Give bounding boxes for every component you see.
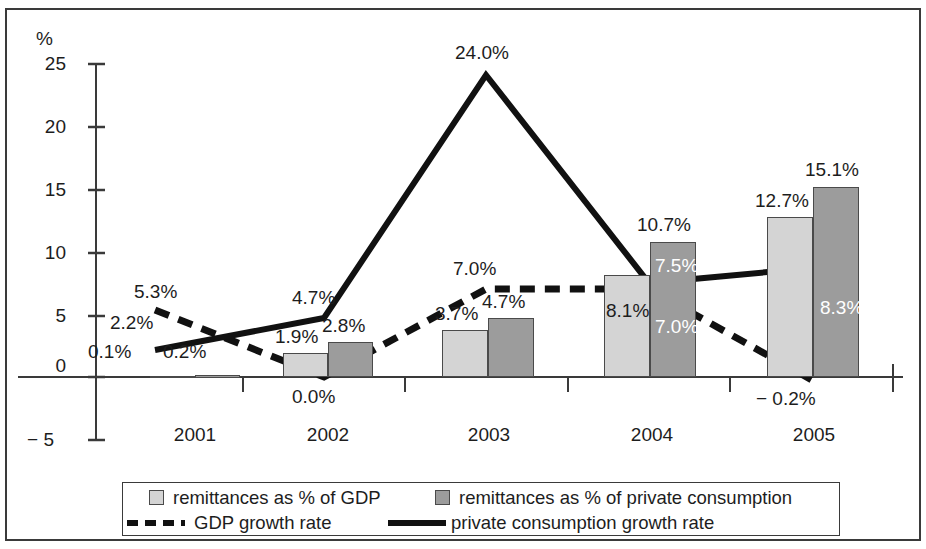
value-label-consumption-share-2003: 4.7% xyxy=(482,291,525,313)
x-axis-label-2004: 2004 xyxy=(607,424,697,446)
bar-gdp-share-2003 xyxy=(442,330,488,377)
y-axis-unit: % xyxy=(36,28,53,50)
bar-consumption-share-2002 xyxy=(328,342,373,377)
y-axis-label-25: 25 xyxy=(24,53,66,75)
value-label-gdp-share-2005: 12.7% xyxy=(755,190,809,212)
value-label-consumption-share-2005: 15.1% xyxy=(805,159,859,181)
chart-screenshot: % 25 20 15 10 5 0 − 5 0.1% 1.9% 3.7% 8.1… xyxy=(0,0,926,549)
legend-row-lines: GDP growth rate private consumption grow… xyxy=(123,509,839,536)
bar-gdp-share-2005 xyxy=(767,217,813,377)
legend-solid-line-icon xyxy=(388,520,446,526)
legend-label-gdp-share: remittances as % of GDP xyxy=(173,487,381,509)
y-axis-label-0: 0 xyxy=(24,355,66,377)
value-label-consumption-growth-2005: 8.3% xyxy=(820,297,863,319)
x-axis-label-2001: 2001 xyxy=(150,424,240,446)
legend-label-consumption-growth: private consumption growth rate xyxy=(451,512,714,534)
value-label-consumption-share-2001: 0.2% xyxy=(163,341,206,363)
legend-label-consumption-share: remittances as % of private consumption xyxy=(459,487,792,509)
y-axis-label-5: 5 xyxy=(24,305,66,327)
value-label-consumption-growth-2003: 24.0% xyxy=(455,42,509,64)
value-label-gdp-growth-2003: 7.0% xyxy=(453,258,496,280)
value-label-consumption-growth-2004: 7.5% xyxy=(655,255,698,277)
legend-dashed-line-icon xyxy=(127,520,185,526)
value-label-gdp-growth-2002: 0.0% xyxy=(292,386,335,408)
bar-gdp-share-2004 xyxy=(604,275,650,377)
value-label-consumption-growth-2002: 4.7% xyxy=(292,287,335,309)
x-axis-label-2003: 2003 xyxy=(444,424,534,446)
y-axis-label-15: 15 xyxy=(24,179,66,201)
bar-gdp-share-2002 xyxy=(283,353,328,377)
legend-item-consumption-growth[interactable]: private consumption growth rate xyxy=(388,509,714,536)
legend-item-gdp-share[interactable]: remittances as % of GDP xyxy=(149,484,381,511)
y-axis-label-10: 10 xyxy=(24,242,66,264)
y-axis-label-20: 20 xyxy=(24,116,66,138)
value-label-gdp-share-2003: 3.7% xyxy=(435,303,478,325)
value-label-gdp-growth-2001: 5.3% xyxy=(134,281,177,303)
x-axis-label-2002: 2002 xyxy=(283,424,373,446)
bar-consumption-share-2001 xyxy=(195,375,240,378)
legend-item-gdp-growth[interactable]: GDP growth rate xyxy=(127,509,331,536)
legend-swatch-dark-icon xyxy=(435,490,450,505)
value-label-consumption-share-2004: 10.7% xyxy=(637,214,691,236)
bar-consumption-share-2003 xyxy=(488,318,534,377)
value-label-consumption-share-2002: 2.8% xyxy=(322,315,365,337)
y-axis-label-minus5: − 5 xyxy=(12,429,54,451)
legend-label-gdp-growth: GDP growth rate xyxy=(194,512,331,534)
value-label-gdp-share-2004: 8.1% xyxy=(606,300,649,322)
bar-consumption-share-2005 xyxy=(813,187,859,377)
legend-row-bars: remittances as % of GDP remittances as %… xyxy=(123,484,839,511)
value-label-consumption-growth-2001: 2.2% xyxy=(110,312,153,334)
chart-legend: remittances as % of GDP remittances as %… xyxy=(122,482,840,536)
legend-item-consumption-share[interactable]: remittances as % of private consumption xyxy=(435,484,792,511)
value-label-gdp-share-2001: 0.1% xyxy=(88,341,131,363)
value-label-gdp-growth-2005: − 0.2% xyxy=(756,388,816,410)
bar-gdp-share-2001 xyxy=(150,376,195,378)
x-axis-label-2005: 2005 xyxy=(769,424,859,446)
value-label-gdp-growth-2004: 7.0% xyxy=(655,316,698,338)
value-label-gdp-share-2002: 1.9% xyxy=(275,326,318,348)
legend-swatch-light-icon xyxy=(149,490,164,505)
